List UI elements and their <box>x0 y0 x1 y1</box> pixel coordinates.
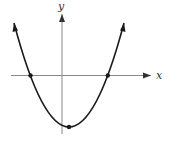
left-x-intercept-point <box>28 73 32 77</box>
x-axis-arrow-icon <box>143 73 151 79</box>
x-axis-label: x <box>156 69 163 82</box>
y-axis-label: y <box>57 0 65 13</box>
curve-right-arrow-icon <box>120 23 126 32</box>
vertex-point <box>67 125 71 129</box>
right-x-intercept-point <box>106 73 110 77</box>
y-axis-arrow-icon <box>59 14 65 22</box>
curve-left-arrow-icon <box>13 23 19 32</box>
parabola-graph: x y <box>0 0 185 145</box>
